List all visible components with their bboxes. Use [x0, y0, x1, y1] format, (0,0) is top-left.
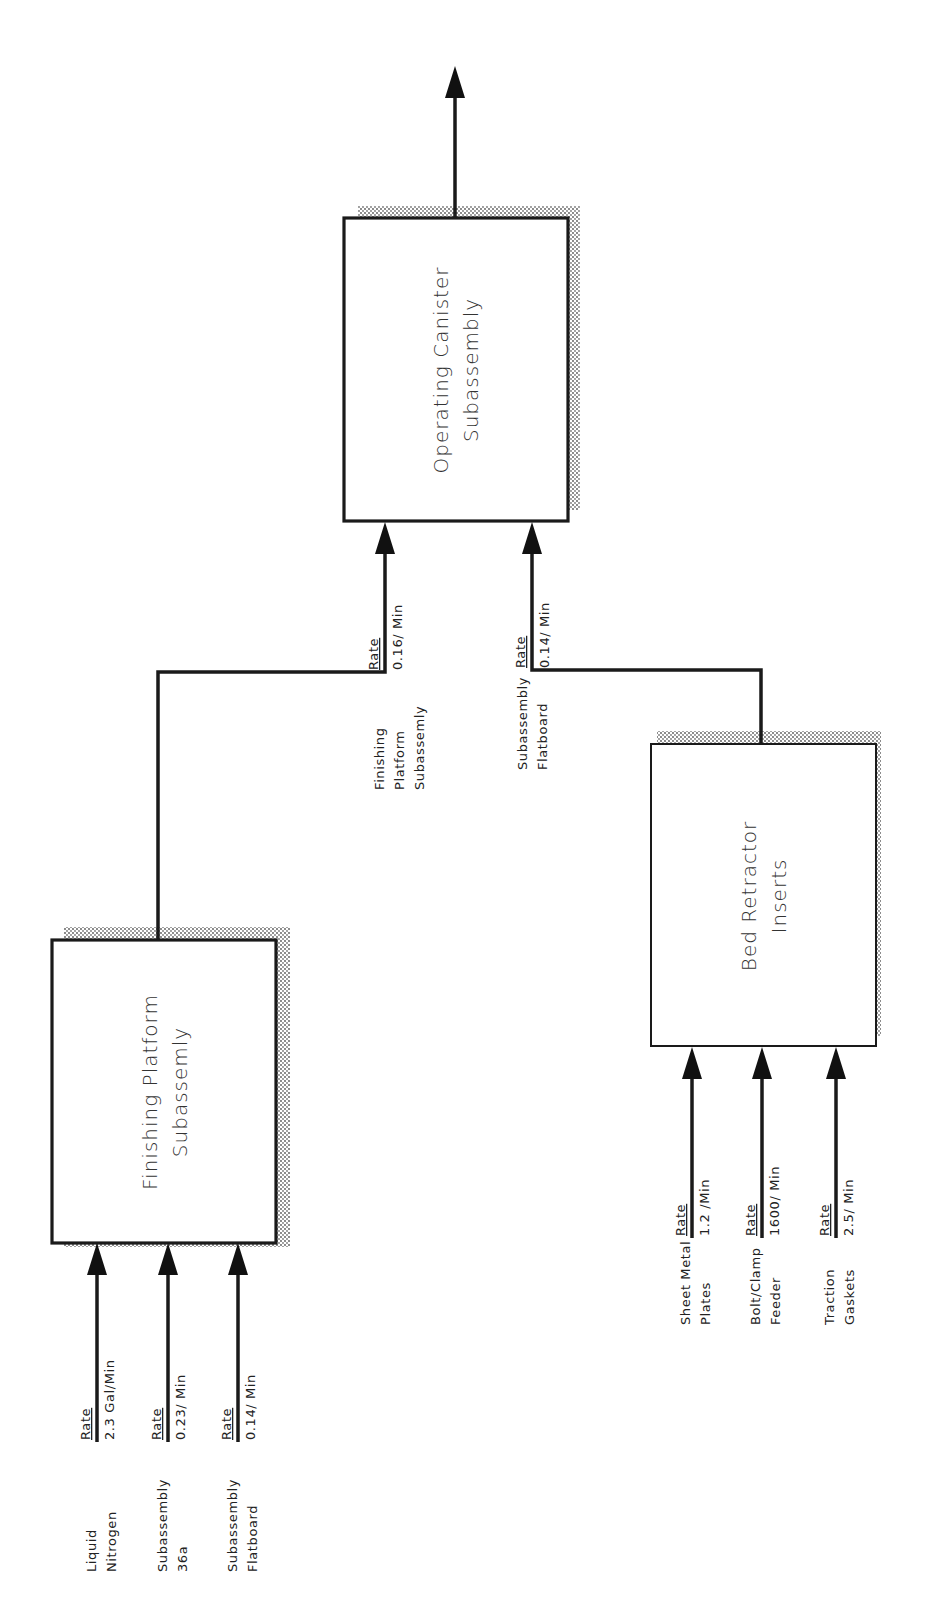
- connection-finishing-to-canister: Rate 0.16/ Min Finishing Platform Subass…: [158, 522, 427, 940]
- source-line1: Subassembly: [225, 1479, 240, 1572]
- box-border: [52, 940, 276, 1243]
- arrowhead-icon: [445, 66, 465, 98]
- node-title-line2: Subassembly: [459, 298, 483, 442]
- rate-label: Rate: [513, 636, 528, 668]
- input-subassembly-36a: Rate 0.23/ Min Subassembly 36a: [149, 1243, 190, 1572]
- node-title-line1: Operating Canister: [429, 267, 453, 474]
- source-line1: Subassembly: [515, 677, 530, 770]
- arrowhead-icon: [87, 1243, 107, 1275]
- rate-value: 0.14/ Min: [537, 602, 552, 668]
- rate-value: 2.5/ Min: [841, 1179, 856, 1236]
- arrowhead-icon: [522, 522, 542, 554]
- output-arrow: [445, 66, 465, 218]
- rate-label: Rate: [366, 638, 381, 670]
- source-line1: Bolt/Clamp: [748, 1247, 763, 1325]
- source-line1: Liquid: [84, 1529, 99, 1572]
- node-title-line2: Inserts: [767, 859, 791, 934]
- source-line1: Subassembly: [155, 1479, 170, 1572]
- rate-value: 1.2 /Min: [697, 1179, 712, 1236]
- source-line1: Traction: [822, 1269, 837, 1326]
- source-line3: Subassemly: [412, 706, 427, 790]
- input-sheet-metal-plates: Rate 1.2 /Min Sheet Metal Plates: [673, 1047, 713, 1325]
- node-title-line2: Subassemly: [168, 1027, 192, 1157]
- node-bed-retractor: Bed Retractor Inserts: [651, 731, 881, 1046]
- source-line2: Flatboard: [245, 1505, 260, 1572]
- arrowhead-icon: [375, 522, 395, 554]
- rate-label: Rate: [149, 1408, 164, 1440]
- arrowhead-icon: [826, 1047, 846, 1079]
- rate-label: Rate: [673, 1204, 688, 1236]
- rate-label: Rate: [219, 1408, 234, 1440]
- source-line2: Gaskets: [842, 1269, 857, 1325]
- arrowhead-icon: [228, 1243, 248, 1275]
- rate-value: 0.14/ Min: [243, 1374, 258, 1440]
- rate-value: 1600/ Min: [767, 1166, 782, 1236]
- rate-value: 0.23/ Min: [173, 1374, 188, 1440]
- node-title-line1: Finishing Platform: [138, 994, 162, 1190]
- arrowhead-icon: [752, 1047, 772, 1079]
- source-line2: 36a: [175, 1546, 190, 1572]
- node-finishing-platform: Finishing Platform Subassemly: [52, 927, 290, 1247]
- source-line1: Sheet Metal: [678, 1241, 693, 1325]
- arrowhead-icon: [158, 1243, 178, 1275]
- node-title-line1: Bed Retractor: [737, 821, 761, 971]
- node-operating-canister: Operating Canister Subassembly: [344, 206, 580, 521]
- source-line2: Plates: [698, 1282, 713, 1325]
- source-line1: Finishing: [372, 727, 387, 790]
- rate-value: 0.16/ Min: [390, 604, 405, 670]
- process-flow-diagram: Operating Canister Subassembly Finishing…: [0, 0, 932, 1621]
- arrowhead-icon: [682, 1047, 702, 1079]
- box-border: [651, 744, 876, 1046]
- source-line2: Platform: [392, 730, 407, 790]
- rate-value: 2.3 Gal/Min: [102, 1359, 117, 1440]
- input-subassembly-flatboard: Rate 0.14/ Min Subassembly Flatboard: [219, 1243, 260, 1572]
- rate-label: Rate: [817, 1204, 832, 1236]
- rate-label: Rate: [743, 1204, 758, 1236]
- input-traction-gaskets: Rate 2.5/ Min Traction Gaskets: [817, 1047, 857, 1326]
- box-border: [344, 218, 568, 521]
- input-liquid-nitrogen: Rate 2.3 Gal/Min Liquid Nitrogen: [78, 1243, 119, 1572]
- rate-label: Rate: [78, 1408, 93, 1440]
- source-line2: Flatboard: [535, 703, 550, 770]
- source-line2: Feeder: [768, 1277, 783, 1325]
- input-bolt-clamp-feeder: Rate 1600/ Min Bolt/Clamp Feeder: [743, 1047, 783, 1325]
- source-line2: Nitrogen: [104, 1511, 119, 1572]
